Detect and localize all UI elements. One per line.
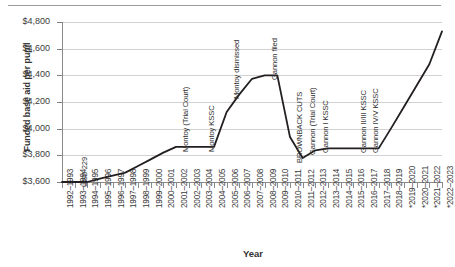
series-line-chart	[62, 22, 442, 182]
chart-annotation: Gannon IV/V KSSC	[371, 89, 380, 154]
x-tick-mark	[328, 182, 329, 188]
y-tick-label: $4,400	[0, 69, 50, 79]
chart-annotation: Gannon II/III KSSC	[359, 91, 368, 154]
chart-annotation: Gannon filed	[270, 38, 279, 80]
y-tick-label: $3,600	[0, 176, 50, 186]
chart-annotation: Gannon (Trial Court)	[308, 88, 317, 155]
x-tick-mark	[100, 182, 101, 188]
chart-annotation: Montoy (Trial Court)	[181, 87, 190, 152]
y-tick-label: $4,000	[0, 123, 50, 133]
y-tick-label: $4,600	[0, 43, 50, 53]
y-tick-label: $4,200	[0, 96, 50, 106]
chart-annotation: Montoy KSSC	[207, 105, 216, 152]
x-tick-mark	[252, 182, 253, 188]
chart-annotation: USD 229	[80, 157, 89, 187]
chart-annotation: BROWNBACK CUTS	[295, 92, 304, 163]
series-line-funded-base-aid	[62, 31, 442, 182]
plot-area: $3,600$3,800$4,000$4,200$4,400$4,600$4,8…	[62, 22, 442, 182]
x-axis-title: Year	[62, 248, 444, 259]
x-tick-mark	[366, 182, 367, 188]
chart-annotation: Gannon I KSSC	[321, 101, 330, 154]
x-tick-mark	[176, 182, 177, 188]
y-tick-label: $4,800	[0, 16, 50, 26]
x-tick-mark	[138, 182, 139, 188]
top-divider-rule	[8, 5, 441, 6]
x-tick-label: *2022–2023	[446, 166, 455, 208]
x-tick-mark	[214, 182, 215, 188]
chart-annotation: Montoy dismissed	[232, 40, 241, 99]
y-tick-label: $3,800	[0, 149, 50, 159]
x-tick-mark	[404, 182, 405, 188]
x-tick-mark	[290, 182, 291, 188]
x-tick-mark	[442, 182, 443, 188]
